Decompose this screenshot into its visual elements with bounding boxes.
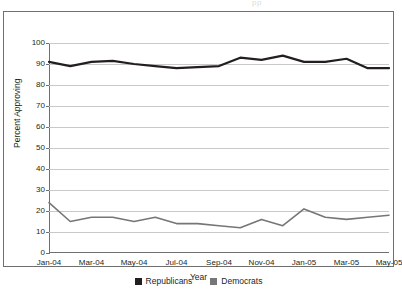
x-tick-label: Jan-05 (292, 259, 316, 267)
legend-item[interactable]: Republicans (135, 276, 193, 286)
x-tick-label: May-04 (121, 259, 148, 267)
series-line-republicans (49, 56, 389, 69)
y-tick-label: 100 (32, 39, 45, 47)
chart-figure-frame: Percent Approving 0102030405060708090100… (3, 11, 394, 267)
legend-item[interactable]: Democrats (210, 276, 262, 286)
y-tick-label: 0 (41, 249, 45, 257)
y-tick-label: 80 (36, 81, 45, 89)
x-tick-label: Mar-05 (334, 259, 359, 267)
series-line-democrats (49, 203, 389, 228)
x-tick-label: Jul-04 (166, 259, 188, 267)
x-tick-label: Jan-04 (37, 259, 61, 267)
y-tick-label: 10 (36, 228, 45, 236)
legend-label: Democrats (221, 276, 262, 286)
y-tick-mark (46, 253, 49, 254)
legend-swatch-icon (135, 278, 142, 285)
data-series-svg (49, 43, 389, 253)
legend-swatch-icon (210, 278, 217, 285)
y-tick-label: 30 (36, 186, 45, 194)
y-tick-label: 90 (36, 60, 45, 68)
x-tick-label: Nov-04 (249, 259, 275, 267)
y-tick-label: 70 (36, 102, 45, 110)
chart-legend: RepublicansDemocrats (0, 276, 397, 286)
plot-area: 0102030405060708090100 Jan-04Mar-04May-0… (49, 43, 389, 253)
x-tick-label: May-05 (376, 259, 402, 267)
y-tick-label: 20 (36, 207, 45, 215)
clipped-header-text: pp (252, 0, 262, 7)
y-tick-label: 60 (36, 123, 45, 131)
x-tick-label: Sep-04 (206, 259, 232, 267)
y-tick-label: 50 (36, 144, 45, 152)
y-tick-label: 40 (36, 165, 45, 173)
y-axis-title: Percent Approving (12, 79, 22, 148)
legend-label: Republicans (146, 276, 193, 286)
x-tick-label: Mar-04 (79, 259, 104, 267)
